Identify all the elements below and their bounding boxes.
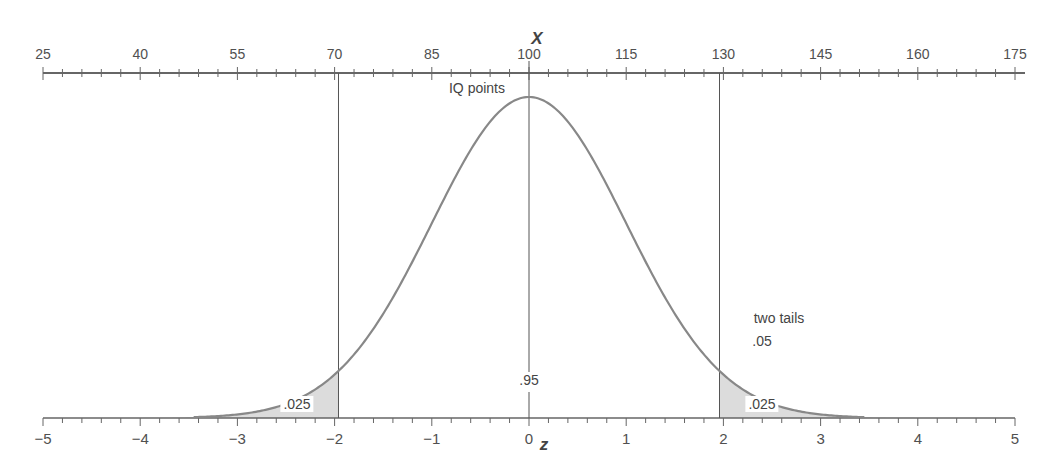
bottom-tick-label: 3 [816, 431, 824, 446]
bottom-tick-label: 5 [1011, 431, 1019, 446]
critical-value-lines [338, 61, 719, 418]
bottom-axis-title: z [540, 436, 549, 453]
bottom-tick-label: 4 [914, 431, 922, 446]
bottom-z-axis [43, 418, 1015, 426]
two-tails-value: .05 [752, 334, 771, 348]
top-tick-label: 55 [230, 47, 246, 61]
center-area-label: .95 [519, 373, 538, 387]
top-tick-label: 25 [35, 47, 51, 61]
bottom-tick-label: −2 [326, 431, 343, 446]
top-axis-title: X [531, 30, 542, 47]
chart-canvas [0, 0, 1045, 473]
top-x-axis [43, 67, 1025, 80]
top-tick-label: 100 [517, 47, 540, 61]
top-tick-label: 175 [1003, 47, 1026, 61]
bottom-tick-label: −1 [423, 431, 440, 446]
bottom-tick-label: −4 [132, 431, 149, 446]
top-tick-label: 70 [327, 47, 343, 61]
top-tick-label: 85 [424, 47, 440, 61]
top-tick-label: 40 [132, 47, 148, 61]
right-tail-area-label: .025 [745, 396, 778, 412]
bottom-tick-label: 0 [525, 431, 533, 446]
bottom-tick-label: −3 [229, 431, 246, 446]
top-tick-label: 130 [712, 47, 735, 61]
bottom-tick-label: 2 [719, 431, 727, 446]
normal-distribution-chart: 2540557085100115130145160175 −5−4−3−2−10… [0, 0, 1045, 473]
top-tick-label: 160 [906, 47, 929, 61]
iq-points-label: IQ points [449, 81, 505, 95]
bottom-tick-label: −5 [34, 431, 51, 446]
top-tick-label: 145 [809, 47, 832, 61]
left-tail-area-label: .025 [280, 396, 313, 412]
two-tails-label: two tails [754, 311, 805, 325]
top-tick-label: 115 [615, 47, 637, 61]
bottom-tick-label: 1 [622, 431, 630, 446]
